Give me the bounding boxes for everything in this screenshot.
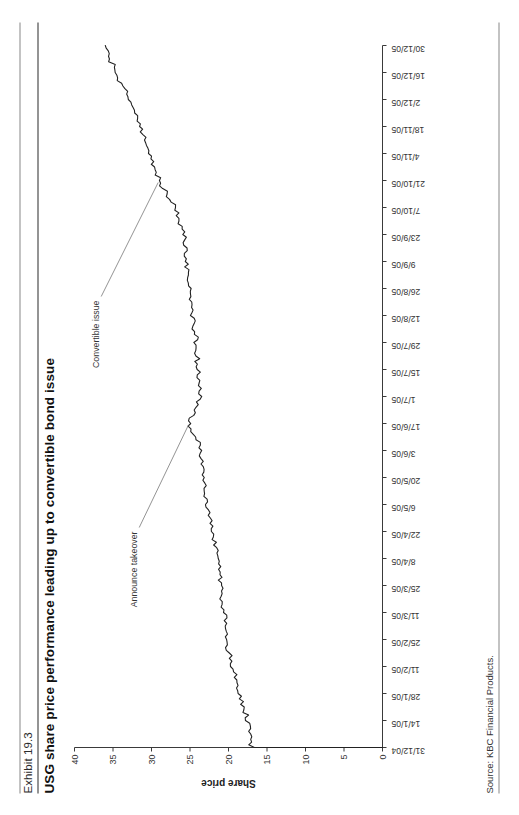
- source-note: Source: KBC Financial Products.: [483, 655, 494, 793]
- y-tick-label: 15: [262, 754, 272, 764]
- x-tick-label: 4/11/05: [391, 151, 419, 161]
- x-tick-label: 11/3/05: [391, 610, 419, 620]
- x-tick-label: 9/9/05: [391, 259, 415, 269]
- y-axis-tick-labels: 0510152025303540: [69, 754, 387, 764]
- y-tick-label: 0: [377, 754, 387, 759]
- exhibit-title: USG share price performance leading up t…: [41, 358, 56, 794]
- x-tick-label: 30/12/05: [391, 43, 425, 53]
- x-tick-label: 1/7/05: [391, 394, 415, 404]
- y-tick-label: 5: [339, 754, 349, 759]
- annotation-leader-line: [101, 182, 158, 296]
- x-tick-label: 11/2/05: [391, 664, 419, 674]
- x-tick-label: 8/4/05: [391, 556, 415, 566]
- y-tick-label: 35: [108, 754, 118, 764]
- x-tick-label: 17/6/05: [391, 421, 420, 431]
- x-tick-label: 28/1/05: [391, 691, 420, 701]
- x-tick-label: 16/12/05: [391, 70, 425, 80]
- x-tick-label: 20/5/05: [391, 475, 420, 485]
- x-tick-label: 26/8/05: [391, 286, 420, 296]
- y-tick-label: 25: [185, 754, 195, 764]
- x-axis-tick-labels: 31/12/0414/1/0528/1/0511/2/0525/2/0511/3…: [391, 43, 425, 755]
- x-tick-label: 14/1/05: [391, 718, 420, 728]
- annotation-label: Convertible issue: [91, 300, 101, 368]
- exhibit-page: Exhibit 19.3 USG share price performance…: [0, 0, 519, 815]
- x-tick-label: 3/6/05: [391, 448, 415, 458]
- y-axis-title: Share price: [200, 777, 255, 788]
- x-tick-label: 2/12/05: [391, 97, 420, 107]
- x-tick-label: 23/9/05: [391, 232, 420, 242]
- annotation-leader-line: [139, 425, 188, 527]
- top-rule: [19, 22, 20, 793]
- rotated-page-wrapper: Exhibit 19.3 USG share price performance…: [0, 0, 519, 815]
- annotation-label: Announce takeover: [129, 531, 139, 607]
- bottom-rule: [498, 22, 499, 793]
- y-tick-label: 20: [223, 754, 233, 764]
- x-tick-label: 22/4/05: [391, 529, 420, 539]
- x-tick-label: 25/2/05: [391, 637, 420, 647]
- chart-annotations: Announce takeoverConvertible issue: [91, 182, 188, 607]
- x-tick-label: 25/3/05: [391, 583, 420, 593]
- share-price-line-chart: 0510152025303540 31/12/0414/1/0528/1/051…: [68, 31, 466, 793]
- x-tick-label: 21/10/05: [391, 178, 425, 188]
- exhibit-number: Exhibit 19.3: [21, 732, 33, 793]
- title-underrule: [37, 22, 38, 793]
- x-tick-label: 6/5/05: [391, 502, 415, 512]
- x-tick-label: 15/7/05: [391, 367, 420, 377]
- x-tick-label: 12/8/05: [391, 313, 420, 323]
- x-tick-label: 31/12/04: [391, 745, 425, 755]
- x-tick-label: 18/11/05: [391, 124, 424, 134]
- y-tick-label: 30: [146, 754, 156, 764]
- x-tick-label: 7/10/05: [391, 205, 420, 215]
- chart-plot-area: 0510152025303540 31/12/0414/1/0528/1/051…: [68, 31, 466, 793]
- price-series-line: [105, 45, 382, 747]
- x-tick-label: 29/7/05: [391, 340, 420, 350]
- y-tick-label: 10: [300, 754, 310, 764]
- y-tick-label: 40: [69, 754, 79, 764]
